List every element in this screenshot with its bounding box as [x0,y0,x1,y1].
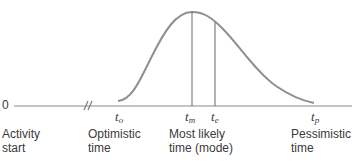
label-most-likely-time: Most likely time (mode) [169,127,233,155]
zero-label: 0 [2,98,9,112]
tick-most-likely: tm [185,109,195,125]
tick-expected: te [211,109,219,125]
label-pessimistic-time: Pessimistic time [291,127,351,155]
label-optimistic-time: Optimistic time [88,127,141,155]
label-activity-start: Activity start [2,127,40,155]
tick-optimistic: to [115,109,123,125]
tick-pessimistic: tp [311,109,319,125]
distribution-curve [118,12,314,103]
